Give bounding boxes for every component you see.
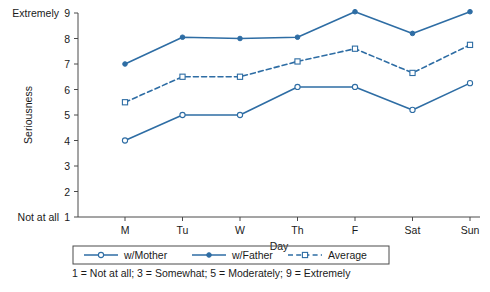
y-axis-low-anchor-label: Not at all [18, 211, 59, 223]
series-w-mother [122, 81, 472, 144]
data-point [467, 42, 472, 47]
x-axis-tick-label: F [352, 224, 358, 236]
x-axis-tick-label: Sat [405, 224, 421, 236]
y-axis-tick-label: 6 [64, 84, 70, 96]
y-axis-tick-label: 1 [64, 211, 70, 223]
legend-label: Average [328, 249, 367, 261]
data-point [467, 81, 472, 86]
seriousness-by-day-line-chart: 123456789ExtremelyNot at allSeriousnessM… [0, 0, 490, 292]
y-axis-tick-label: 2 [64, 186, 70, 198]
series-line [125, 83, 470, 140]
x-axis-tick-label: W [235, 224, 245, 236]
legend-item-w-mother[interactable]: w/Mother [84, 249, 168, 261]
legend-marker [98, 252, 103, 257]
x-axis-tick-label: M [121, 224, 130, 236]
data-point [237, 112, 242, 117]
data-point [180, 35, 185, 40]
data-point [468, 9, 473, 14]
legend-label: w/Father [231, 249, 273, 261]
data-point [352, 46, 357, 51]
data-point [295, 59, 300, 64]
data-point [295, 84, 300, 89]
data-point [180, 112, 185, 117]
chart-axes [78, 13, 480, 217]
series-average [122, 42, 472, 105]
y-axis-tick-label: 5 [64, 109, 70, 121]
chart-container: 123456789ExtremelyNot at allSeriousnessM… [0, 0, 490, 292]
legend-marker [302, 252, 307, 257]
data-point [353, 9, 358, 14]
y-axis-tick-label: 7 [64, 58, 70, 70]
data-point [410, 70, 415, 75]
data-point [122, 138, 127, 143]
y-axis-tick-label: 9 [64, 7, 70, 19]
y-axis-tick-label: 8 [64, 33, 70, 45]
data-point [180, 74, 185, 79]
x-axis-tick-label: Tu [177, 224, 189, 236]
data-point [122, 100, 127, 105]
data-point [238, 36, 243, 41]
y-axis-tick-label: 4 [64, 135, 70, 147]
series-w-father [123, 9, 473, 66]
series-line [125, 45, 470, 102]
y-axis-tick-label: 3 [64, 160, 70, 172]
data-point [237, 74, 242, 79]
y-axis-title: Seriousness [22, 86, 34, 144]
legend-item-average[interactable]: Average [288, 249, 367, 261]
legend-item-w-father[interactable]: w/Father [192, 249, 273, 261]
data-point [410, 107, 415, 112]
x-axis-tick-label: Sun [461, 224, 480, 236]
data-point [410, 31, 415, 36]
legend-marker [207, 253, 212, 258]
chart-footnote: 1 = Not at all; 3 = Somewhat; 5 = Modera… [72, 267, 351, 279]
legend-label: w/Mother [123, 249, 168, 261]
y-axis-high-anchor-label: Extremely [12, 7, 59, 19]
x-axis-tick-label: Th [291, 224, 303, 236]
data-point [352, 84, 357, 89]
data-point [123, 62, 128, 67]
data-point [295, 35, 300, 40]
